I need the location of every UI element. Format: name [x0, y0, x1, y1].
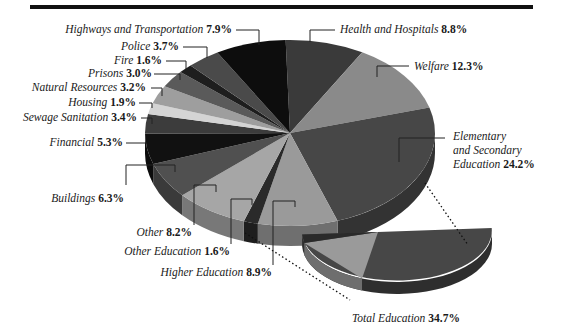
label-housing: Housing 1.9%: [67, 96, 136, 109]
label-prisons: Prisons 3.0%: [87, 67, 152, 79]
breakout-pie: [302, 228, 492, 294]
label-elementary-line3: Education 24.2%: [452, 158, 535, 170]
label-other: Other 8.2%: [136, 226, 192, 238]
pie-slices: [145, 40, 435, 226]
label-buildings: Buildings 6.3%: [51, 192, 124, 205]
label-fire: Fire 1.6%: [113, 54, 162, 66]
label-total-education: Total Education 34.7%: [352, 312, 460, 324]
label-health: Health and Hospitals 8.8%: [339, 23, 467, 36]
label-other-education: Other Education 1.6%: [124, 245, 230, 257]
label-natural-resources: Natural Resources 3.2%: [31, 81, 146, 93]
top-rule: [30, 5, 533, 9]
pie-chart: Highways and Transportation 7.9% Police …: [0, 0, 561, 334]
label-elementary-line2: and Secondary: [453, 144, 523, 157]
label-highways: Highways and Transportation 7.9%: [64, 23, 232, 36]
label-sewage: Sewage Sanitation 3.4%: [23, 111, 137, 124]
label-elementary-line1: Elementary: [452, 130, 507, 143]
label-higher-education: Higher Education 8.9%: [160, 266, 272, 279]
label-welfare: Welfare 12.3%: [414, 60, 483, 73]
label-financial: Financial 5.3%: [49, 136, 123, 148]
label-police: Police 3.7%: [120, 40, 179, 52]
